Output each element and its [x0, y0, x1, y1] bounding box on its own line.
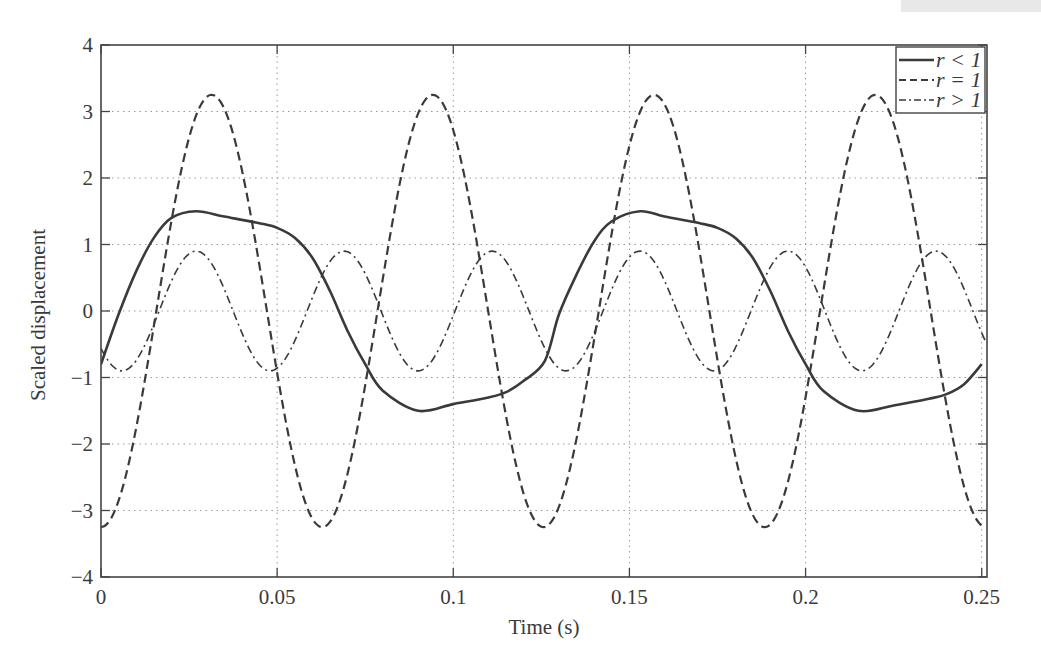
x-tick-label: 0.05	[259, 585, 296, 609]
x-tick-label: 0.1	[440, 585, 466, 609]
x-tick-label: 0.15	[611, 585, 648, 609]
y-tick-label: 0	[83, 299, 94, 323]
y-tick-label: 4	[83, 33, 94, 57]
y-tick-label: −2	[71, 432, 93, 456]
x-axis-label: Time (s)	[509, 615, 580, 639]
line-chart: 00.050.10.150.20.25 −4−3−2−101234 Time (…	[0, 0, 1041, 657]
x-tick-label: 0.25	[963, 585, 1000, 609]
y-tick-label: −3	[71, 499, 93, 523]
y-tick-label: 1	[83, 233, 94, 257]
y-tick-label: 3	[83, 100, 94, 124]
grid-lines	[101, 45, 987, 577]
y-axis-label: Scaled displacement	[26, 229, 50, 401]
y-tick-labels: −4−3−2−101234	[71, 33, 94, 589]
y-tick-label: 2	[83, 166, 94, 190]
legend-label: r > 1	[936, 87, 981, 112]
x-tick-label: 0.2	[792, 585, 818, 609]
y-tick-label: −4	[71, 565, 94, 589]
y-tick-label: −1	[71, 366, 93, 390]
x-tick-label: 0	[96, 585, 107, 609]
x-tick-labels: 00.050.10.150.20.25	[96, 585, 1000, 609]
legend: r < 1r = 1r > 1	[896, 47, 985, 113]
